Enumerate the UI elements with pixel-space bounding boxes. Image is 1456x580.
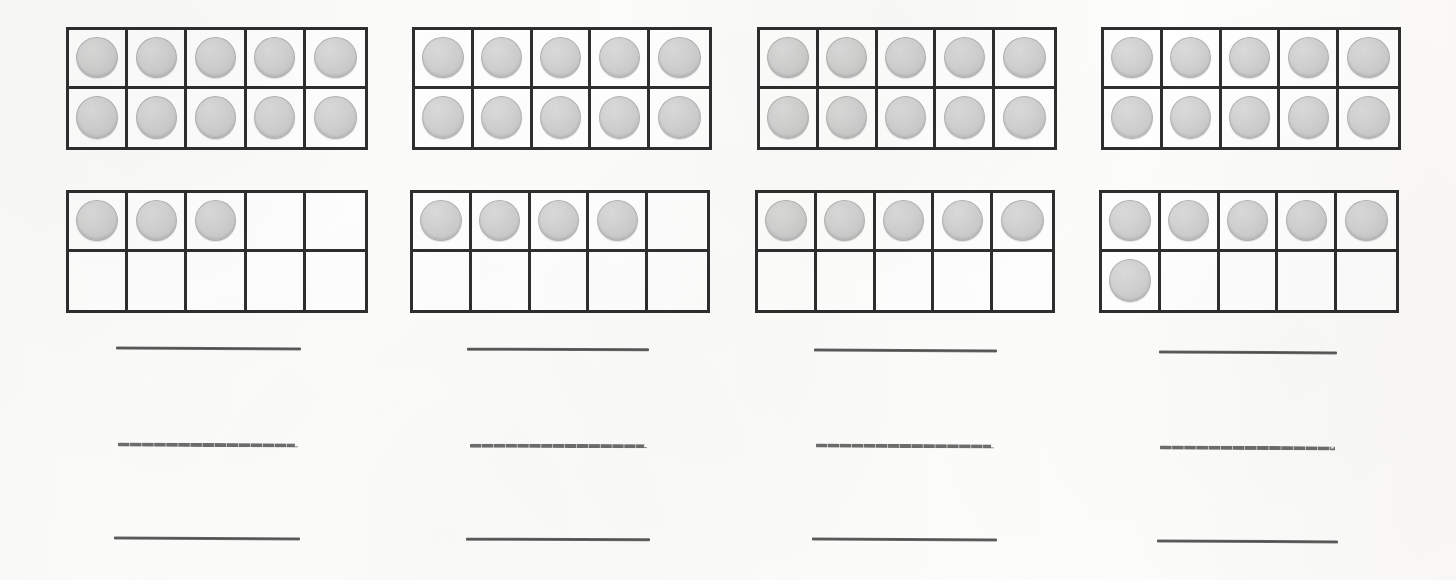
ten-frame-cell[interactable]	[876, 252, 935, 311]
ten-frame-cell[interactable]	[648, 193, 707, 252]
ten-frame-cell[interactable]	[1220, 252, 1279, 311]
ten-frame-cell[interactable]	[1278, 193, 1337, 252]
counter-disc-icon	[254, 37, 296, 78]
ten-frame-cell[interactable]	[876, 193, 935, 252]
ten-frame-cell[interactable]	[758, 193, 817, 252]
ten-frame-cell[interactable]	[472, 252, 531, 311]
ten-frame-cell[interactable]	[995, 30, 1054, 89]
answer-line-top[interactable]	[116, 347, 301, 351]
ten-frame-bottom	[66, 190, 368, 313]
answer-line-bottom[interactable]	[812, 538, 997, 542]
answer-line-middle[interactable]	[470, 444, 647, 449]
ten-frame-cell[interactable]	[1278, 252, 1337, 311]
ten-frame-cell[interactable]	[1102, 193, 1161, 252]
answer-line-top[interactable]	[1159, 351, 1337, 355]
ten-frame-cell[interactable]	[993, 193, 1052, 252]
ten-frame-cell[interactable]	[69, 30, 128, 89]
ten-frame-cell[interactable]	[474, 30, 533, 89]
ten-frame-cell[interactable]	[128, 252, 187, 311]
ten-frame-cell[interactable]	[247, 252, 306, 311]
ten-frame-cell[interactable]	[760, 89, 819, 148]
answer-line-middle[interactable]	[1160, 446, 1335, 451]
ten-frame-cell[interactable]	[306, 30, 365, 89]
ten-frame-cell[interactable]	[531, 193, 590, 252]
ten-frame-cell[interactable]	[69, 193, 128, 252]
ten-frame-cell[interactable]	[817, 252, 876, 311]
counter-disc-icon	[1003, 37, 1047, 78]
ten-frame-cell[interactable]	[1163, 89, 1222, 148]
ten-frame-cell[interactable]	[1163, 30, 1222, 89]
ten-frame-cell[interactable]	[187, 193, 246, 252]
answer-line-middle[interactable]	[816, 444, 994, 449]
counter-disc-icon	[1003, 96, 1047, 139]
ten-frame-cell[interactable]	[1337, 193, 1396, 252]
answer-line-bottom[interactable]	[1157, 540, 1338, 544]
ten-frame-cell[interactable]	[650, 89, 709, 148]
ten-frame-cell[interactable]	[1280, 30, 1339, 89]
ten-frame-cell[interactable]	[128, 89, 187, 148]
ten-frame-cell[interactable]	[415, 89, 474, 148]
answer-line-bottom[interactable]	[114, 537, 300, 541]
ten-frame-cell[interactable]	[128, 30, 187, 89]
ten-frame-cell[interactable]	[306, 252, 365, 311]
ten-frame-cell[interactable]	[413, 193, 472, 252]
ten-frame-cell[interactable]	[589, 252, 648, 311]
answer-line-bottom[interactable]	[466, 538, 650, 542]
ten-frame-cell[interactable]	[591, 30, 650, 89]
ten-frame-cell[interactable]	[1104, 30, 1163, 89]
ten-frame-cell[interactable]	[306, 193, 365, 252]
ten-frame-cell[interactable]	[413, 252, 472, 311]
ten-frame-cell[interactable]	[878, 30, 937, 89]
ten-frame-cell[interactable]	[936, 89, 995, 148]
ten-frame-cell[interactable]	[1339, 89, 1398, 148]
ten-frame-cell[interactable]	[1339, 30, 1398, 89]
ten-frame-cell[interactable]	[69, 89, 128, 148]
ten-frame-cell[interactable]	[591, 89, 650, 148]
ten-frame-cell[interactable]	[247, 193, 306, 252]
ten-frame-cell[interactable]	[934, 193, 993, 252]
ten-frame-cell[interactable]	[878, 89, 937, 148]
ten-frame-cell[interactable]	[1104, 89, 1163, 148]
counter-disc-icon	[767, 96, 808, 139]
ten-frame-cell[interactable]	[533, 30, 592, 89]
ten-frame-cell[interactable]	[819, 89, 878, 148]
ten-frame-cell[interactable]	[1337, 252, 1396, 311]
ten-frame-cell[interactable]	[128, 193, 187, 252]
ten-frame-cell[interactable]	[247, 30, 306, 89]
ten-frame-cell[interactable]	[817, 193, 876, 252]
ten-frame-cell[interactable]	[247, 89, 306, 148]
ten-frame-cell[interactable]	[415, 30, 474, 89]
ten-frame-cell[interactable]	[531, 252, 590, 311]
ten-frame-cell[interactable]	[650, 30, 709, 89]
ten-frame-cell[interactable]	[1280, 89, 1339, 148]
counter-disc-icon	[1288, 37, 1329, 78]
ten-frame-cell[interactable]	[589, 193, 648, 252]
answer-line-middle[interactable]	[118, 443, 298, 448]
ten-frame-cell[interactable]	[819, 30, 878, 89]
ten-frame-cell[interactable]	[1102, 252, 1161, 311]
ten-frame-cell[interactable]	[69, 252, 128, 311]
ten-frame-cell[interactable]	[1222, 89, 1281, 148]
ten-frame-cell[interactable]	[936, 30, 995, 89]
ten-frame-cell[interactable]	[187, 89, 246, 148]
counter-disc-icon	[481, 37, 522, 78]
ten-frame-cell[interactable]	[760, 30, 819, 89]
ten-frame-cell[interactable]	[1161, 193, 1220, 252]
ten-frame-cell[interactable]	[648, 252, 707, 311]
ten-frame-cell[interactable]	[758, 252, 817, 311]
counter-disc-icon	[195, 200, 237, 241]
ten-frame-cell[interactable]	[1161, 252, 1220, 311]
ten-frame-cell[interactable]	[472, 193, 531, 252]
answer-line-top[interactable]	[814, 349, 997, 353]
ten-frame-cell[interactable]	[306, 89, 365, 148]
ten-frame-cell[interactable]	[187, 30, 246, 89]
ten-frame-cell[interactable]	[995, 89, 1054, 148]
ten-frame-cell[interactable]	[1220, 193, 1279, 252]
ten-frame-cell[interactable]	[993, 252, 1052, 311]
ten-frame-cell[interactable]	[1222, 30, 1281, 89]
ten-frame-cell[interactable]	[187, 252, 246, 311]
ten-frame-cell[interactable]	[533, 89, 592, 148]
answer-line-top[interactable]	[467, 348, 649, 352]
ten-frame-cell[interactable]	[474, 89, 533, 148]
ten-frame-cell[interactable]	[934, 252, 993, 311]
